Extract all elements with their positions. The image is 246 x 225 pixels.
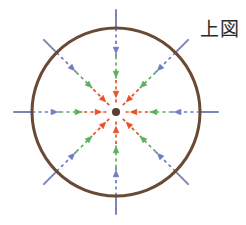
spoke-outside-segment — [44, 171, 57, 184]
ring-inner-arrowhead — [113, 91, 118, 97]
ring-inner-arrowhead — [113, 127, 118, 133]
ring-middle-arrowhead — [113, 71, 118, 77]
ring-inner-arrowhead — [126, 95, 132, 101]
ring-outer-arrowhead — [113, 47, 118, 53]
spoke-outside-segment — [175, 40, 188, 53]
ring-inner-arrowhead — [131, 109, 137, 114]
ring-inner-arrowhead — [95, 109, 101, 114]
ring-inner-arrowhead — [126, 122, 132, 128]
spoke-outside-segment — [175, 171, 188, 184]
center-dot — [112, 108, 120, 116]
spoke-outside-segment — [44, 40, 57, 53]
ring-middle-arrowhead — [113, 147, 118, 153]
ring-outer-arrowhead — [175, 109, 181, 114]
ring-middle-arrowhead — [151, 109, 157, 114]
ring-outer-arrowhead — [113, 171, 118, 177]
ring-inner-arrowhead — [99, 95, 105, 101]
figure-container: 上図 — [0, 0, 246, 225]
ring-inner-arrowhead — [99, 122, 105, 128]
ring-middle-arrowhead — [75, 109, 81, 114]
ring-outer-arrowhead — [51, 109, 57, 114]
figure-caption-label: 上図 — [200, 20, 240, 39]
ring-outer-arrowhead — [68, 64, 74, 70]
ring-outer-arrowhead — [157, 153, 163, 159]
ring-outer-arrowhead — [68, 153, 74, 159]
ring-outer-arrowhead — [157, 64, 163, 70]
